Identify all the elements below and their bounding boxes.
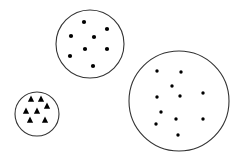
medium-circle-group — [56, 10, 124, 78]
dot-marker — [69, 34, 73, 38]
small-circle-group — [15, 92, 59, 136]
diagram-canvas — [0, 0, 239, 160]
triangle-marker — [28, 96, 34, 102]
dot-marker — [83, 47, 87, 51]
dot-marker — [176, 133, 179, 136]
dot-marker — [170, 84, 173, 87]
triangle-marker — [23, 108, 29, 114]
dot-marker — [201, 117, 204, 120]
dot-marker — [68, 54, 72, 58]
triangle-marker — [42, 117, 48, 123]
large-circle-group — [129, 51, 229, 151]
dot-marker — [179, 70, 182, 73]
dot-marker — [92, 35, 96, 39]
triangle-marker — [38, 96, 44, 102]
dot-marker — [82, 20, 86, 24]
triangle-marker — [44, 103, 50, 109]
dot-marker — [105, 47, 109, 51]
dot-marker — [174, 117, 177, 120]
dot-marker — [154, 122, 157, 125]
small-circle — [15, 92, 59, 136]
dot-marker — [201, 91, 204, 94]
dot-marker — [91, 64, 95, 68]
triangle-marker — [27, 117, 33, 123]
dot-marker — [155, 69, 158, 72]
triangle-marker — [34, 108, 40, 114]
medium-circle — [56, 10, 124, 78]
dot-marker — [159, 110, 162, 113]
dot-marker — [178, 94, 181, 97]
dot-marker — [105, 27, 109, 31]
dot-marker — [155, 95, 158, 98]
